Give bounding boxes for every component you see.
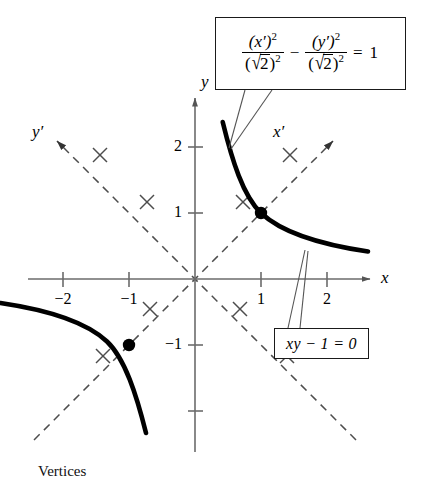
x-tick-label--1: −1 [114,290,144,308]
fraction-y-prime-denominator: (√2)2 [305,52,347,73]
leader-line-equation-a [229,90,245,148]
primary-axes-group [28,98,370,452]
x-prime-axis-label: x′ [273,122,284,142]
x-tick-label-1: 1 [246,290,276,308]
leader-line-callout-a [288,250,305,328]
fraction-y-prime-numerator: (y′)2 [309,33,343,52]
y-tick-label-1: 1 [156,203,182,221]
equation-box: (x′)2 (√2)2 − (y′)2 (√2)2 = 1 [215,17,406,90]
equals-sign: = [352,43,364,63]
equation-rhs: 1 [368,43,379,63]
fraction-x-prime: (x′)2 (√2)2 [242,33,284,72]
x-axis-label: x [381,268,389,288]
x-prime-axis-line [34,141,333,440]
leader-line-callout-b [300,251,308,328]
callout-box: xy − 1 = 0 [274,328,369,359]
fraction-x-prime-denominator: (√2)2 [242,52,284,73]
vertices-caption: Vertices [38,463,86,479]
y-tick-label--1: −1 [146,335,182,353]
minus-operator: − [289,43,301,63]
y-prime-ticks [93,148,294,363]
hyperbola-curves [1,122,369,433]
fraction-y-prime: (y′)2 (√2)2 [305,33,347,72]
y-tick-label-2: 2 [156,137,182,155]
y-axis-label: y [201,72,209,92]
hyperbola-figure: (x′)2 (√2)2 − (y′)2 (√2)2 = 1 xy − 1 = 0… [0,0,422,479]
hyperbola-branch-upper-right [223,122,368,252]
x-prime-ticks [96,148,297,363]
x-tick-label--2: −2 [48,290,78,308]
y-prime-axis-label: y′ [32,122,43,142]
vertex-point-lower [123,339,135,351]
x-tick-label-2: 2 [312,290,342,308]
fraction-x-prime-numerator: (x′)2 [246,33,280,52]
vertex-point-upper [255,207,267,219]
equation-content: (x′)2 (√2)2 − (y′)2 (√2)2 = 1 [242,33,379,72]
callout-label: xy − 1 = 0 [286,335,357,353]
hyperbola-branch-lower-left [1,303,147,433]
